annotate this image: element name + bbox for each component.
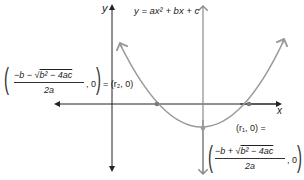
y-axis-label: y	[102, 3, 108, 14]
root-left-denominator: 2a	[44, 85, 54, 95]
equation-label: y = ax² + bx + c	[134, 6, 199, 16]
right-paren: )	[297, 140, 302, 174]
root-right-equals: (r₁, 0) =	[236, 124, 266, 133]
parabola-curve	[120, 40, 284, 127]
root-right-suffix: , 0	[287, 156, 297, 165]
vertex-point	[201, 126, 206, 131]
fraction-bar	[14, 82, 84, 83]
fraction-bar	[215, 158, 285, 159]
parabola-diagram: y x y = ax² + bx + c ( −b − √b² − 4ac 2a…	[0, 0, 304, 180]
root-right-numerator: −b + √b² − 4ac	[215, 146, 273, 156]
x-axis-label: x	[277, 106, 282, 116]
root-left-equals: = (r₂, 0)	[103, 80, 133, 89]
right-paren: )	[96, 62, 101, 96]
left-paren: (	[208, 140, 213, 174]
root-point-right	[247, 102, 252, 107]
root-left-numerator: −b − √b² − 4ac	[14, 70, 72, 80]
root-left-suffix: , 0	[86, 80, 96, 89]
root-right-denominator: 2a	[245, 161, 255, 171]
root-point-left	[155, 102, 160, 107]
left-paren: (	[4, 62, 9, 96]
